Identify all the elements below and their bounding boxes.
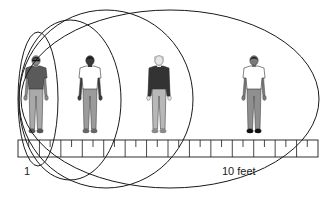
person-4	[242, 56, 267, 134]
hand	[263, 96, 267, 101]
hand	[24, 96, 28, 101]
pants	[152, 88, 166, 129]
pants	[247, 88, 261, 129]
shirt	[25, 66, 47, 89]
shoe-icon	[160, 129, 167, 133]
distance-ruler	[18, 140, 318, 157]
pants	[83, 88, 97, 129]
hand	[45, 96, 49, 101]
shoe-icon	[255, 129, 262, 133]
shoe-icon	[152, 129, 159, 133]
proxemics-diagram	[0, 0, 334, 198]
shirt	[243, 66, 265, 89]
hand	[99, 96, 103, 101]
hand	[78, 96, 82, 101]
hand	[168, 96, 172, 101]
hand	[147, 96, 151, 101]
shirt	[79, 66, 101, 89]
person-1	[24, 56, 49, 134]
ruler-end-label: 10 feet	[222, 166, 256, 177]
shoe-icon	[247, 129, 254, 133]
person-2	[78, 56, 103, 134]
pants	[29, 88, 43, 129]
people-group	[24, 56, 267, 134]
shoe-icon	[91, 129, 98, 133]
shoe-icon	[37, 129, 44, 133]
shoe-icon	[83, 129, 90, 133]
hand	[242, 96, 246, 101]
ruler-start-label: 1	[24, 166, 30, 177]
person-3	[147, 56, 172, 134]
